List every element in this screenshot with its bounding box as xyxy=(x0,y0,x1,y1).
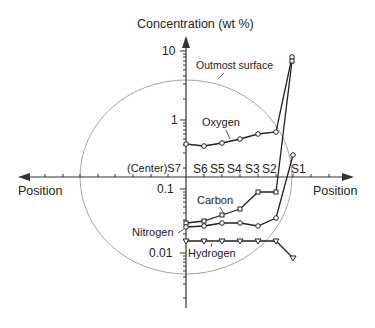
arrow-up-icon xyxy=(182,36,190,48)
category-s1: S1 xyxy=(291,162,306,176)
category-s5: S5 xyxy=(210,162,225,176)
series-label-hydrogen: Hydrogen xyxy=(188,247,236,259)
arrow-right-icon xyxy=(342,173,354,181)
arrow-left-icon xyxy=(18,173,30,181)
y-tick-0.01: 0.01 xyxy=(149,246,173,260)
series-label-nitrogen: Nitrogen xyxy=(132,226,174,238)
y-tick-10: 10 xyxy=(162,44,176,58)
category-s4: S4 xyxy=(227,162,242,176)
series-label-oxygen: Oxygen xyxy=(202,116,240,128)
y-axis xyxy=(180,36,190,308)
outmost-arrow-icon xyxy=(218,73,224,79)
y-tick-0.1: 0.1 xyxy=(157,182,174,196)
chart-canvas: Concentration (wt %) 10 1 0.1 0.01 Posit… xyxy=(0,0,375,328)
series-label-carbon: Carbon xyxy=(197,194,233,206)
x-axis-label-left: Position xyxy=(18,184,63,198)
outmost-surface-label: Outmost surface xyxy=(196,59,273,71)
category-s6: S6 xyxy=(193,162,208,176)
x-axis-label-right: Position xyxy=(313,184,358,198)
y-tick-1: 1 xyxy=(171,113,178,127)
category-s3: S3 xyxy=(245,162,260,176)
category-s2: S2 xyxy=(262,162,277,176)
category-s7: (Center)S7 xyxy=(127,162,181,174)
y-axis-title: Concentration (wt %) xyxy=(137,17,254,31)
